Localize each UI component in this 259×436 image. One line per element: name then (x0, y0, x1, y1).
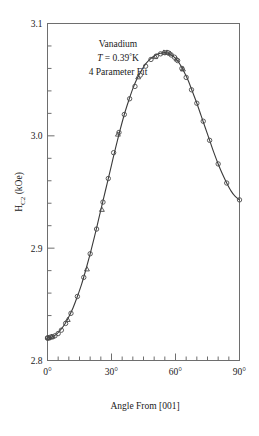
y-tick-label: 3.1 (31, 19, 43, 29)
annotation-temperature: T = 0.39°K (97, 52, 139, 63)
y-axis-minor-ticks (48, 46, 52, 338)
annotation-temperature-unit: K (132, 53, 139, 63)
x-tick-label: 30° (105, 367, 119, 377)
x-axis-title: Angle From [001] (110, 401, 179, 411)
y-tick-label: 2.8 (31, 356, 43, 366)
svg-text:HC2 (kOe): HC2 (kOe) (14, 172, 27, 212)
x-tick-label: 0° (43, 367, 52, 377)
data-markers-triangles (46, 50, 185, 340)
data-point-triangle (99, 207, 104, 211)
y-axis-title: HC2 (kOe) (14, 172, 27, 212)
chart-annotation-block: Vanadium T = 0.39°K 4 Parameter Fit (89, 39, 148, 77)
annotation-temperature-value: = 0.39 (102, 53, 129, 63)
chart-svg: 2.82.93.03.1 0°30°60°90° HC2 (kOe) Angle… (0, 0, 259, 436)
fit-curve (48, 53, 240, 338)
y-axis-title-unit: (kOe) (14, 172, 25, 197)
y-axis-major-ticks (48, 24, 55, 361)
y-tick-label: 3.0 (31, 131, 43, 141)
x-tick-label: 90° (233, 367, 247, 377)
data-point-triangle (85, 267, 90, 271)
x-axis-title-text: Angle From [001] (110, 401, 179, 411)
fit-curve-path (48, 53, 240, 338)
annotation-sample-name: Vanadium (99, 39, 138, 49)
chart-figure: 2.82.93.03.1 0°30°60°90° HC2 (kOe) Angle… (0, 0, 259, 436)
data-markers-circles (45, 51, 241, 341)
y-axis-tick-labels: 2.82.93.03.1 (31, 19, 43, 366)
y-tick-label: 2.9 (31, 244, 43, 254)
x-axis-tick-labels: 0°30°60°90° (43, 367, 246, 377)
x-axis-minor-ticks (58, 357, 229, 361)
x-tick-label: 60° (169, 367, 183, 377)
